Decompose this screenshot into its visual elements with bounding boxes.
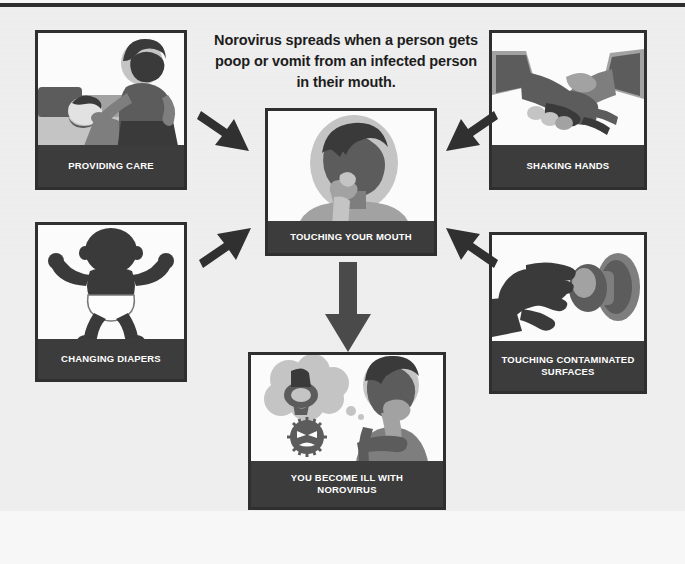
panel-touching-contaminated-surfaces: TOUCHING CONTAMINATED SURFACES xyxy=(489,232,647,394)
changing-diapers-illustration xyxy=(38,225,184,345)
panel-providing-care: PROVIDING CARE xyxy=(35,30,187,190)
arrow-care-to-mouth-icon xyxy=(197,105,255,161)
heading-line-3: in their mouth. xyxy=(196,72,496,93)
changing-diapers-caption: CHANGING DIAPERS xyxy=(38,339,184,379)
touching-contaminated-surfaces-illustration xyxy=(492,235,644,347)
you-become-ill-illustration xyxy=(251,355,443,467)
you-become-ill-caption: YOU BECOME ILL WITH NOROVIRUS xyxy=(251,461,443,507)
panel-you-become-ill: YOU BECOME ILL WITH NOROVIRUS xyxy=(248,352,446,510)
touching-your-mouth-illustration xyxy=(268,111,434,227)
panel-changing-diapers: CHANGING DIAPERS xyxy=(35,222,187,382)
arrow-shake-to-mouth-icon xyxy=(440,105,498,161)
infographic-page: Norovirus spreads when a person gets poo… xyxy=(0,0,685,564)
arrow-surface-to-mouth-icon xyxy=(440,218,498,274)
heading-line-1: Norovirus spreads when a person gets xyxy=(196,30,496,51)
page-title: Norovirus spreads when a person gets poo… xyxy=(196,30,496,93)
surfaces-caption-line-1: TOUCHING CONTAMINATED xyxy=(502,354,635,366)
panel-touching-your-mouth: TOUCHING YOUR MOUTH xyxy=(265,108,437,256)
providing-care-illustration xyxy=(38,33,184,151)
ill-caption-line-1: YOU BECOME ILL WITH xyxy=(291,472,403,484)
shaking-hands-illustration xyxy=(492,33,644,151)
touching-contaminated-surfaces-caption: TOUCHING CONTAMINATED SURFACES xyxy=(492,341,644,391)
top-rule-divider xyxy=(0,3,685,7)
ill-caption-line-2: NOROVIRUS xyxy=(317,484,376,496)
arrow-mouth-to-ill-icon xyxy=(325,262,371,354)
arrow-diaper-to-mouth-icon xyxy=(199,218,257,274)
providing-care-caption: PROVIDING CARE xyxy=(38,145,184,187)
shaking-hands-caption: SHAKING HANDS xyxy=(492,145,644,187)
surfaces-caption-line-2: SURFACES xyxy=(541,366,594,378)
virus-icon xyxy=(287,417,327,457)
touching-your-mouth-caption: TOUCHING YOUR MOUTH xyxy=(268,221,434,253)
heading-line-2: poop or vomit from an infected person xyxy=(196,51,496,72)
panel-shaking-hands: SHAKING HANDS xyxy=(489,30,647,190)
